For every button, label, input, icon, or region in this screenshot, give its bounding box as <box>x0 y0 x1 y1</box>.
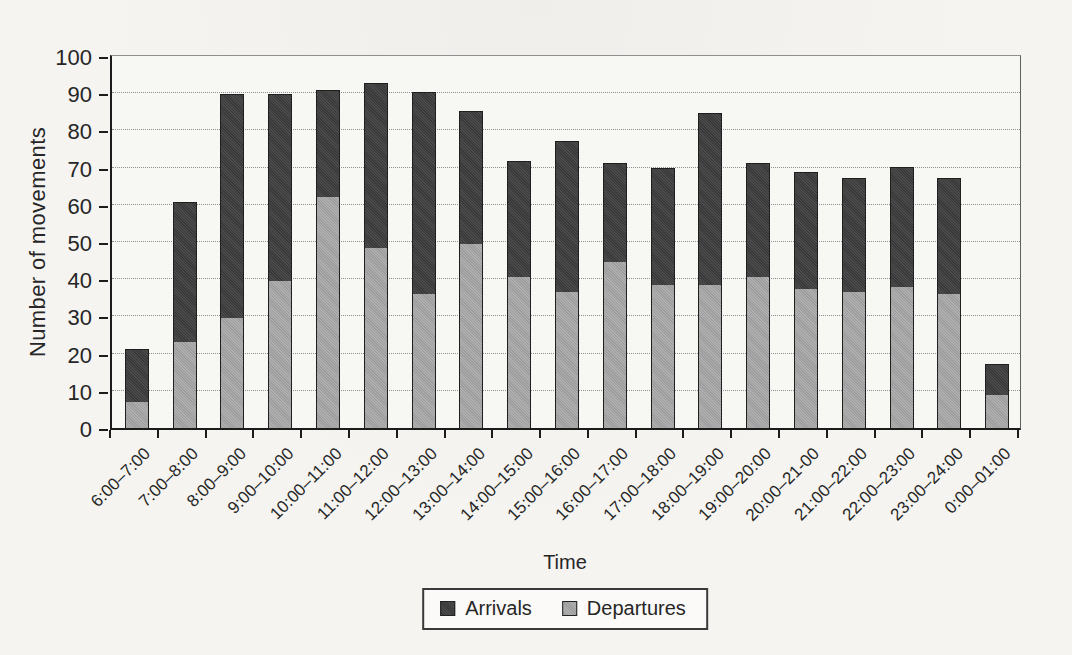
bar-segment-arrivals <box>365 84 387 248</box>
y-tick-label: 40 <box>68 269 92 293</box>
bar-segment-arrivals <box>795 173 817 288</box>
bar <box>268 94 292 428</box>
y-tick-mark <box>99 243 108 245</box>
legend-swatch-departures <box>562 601 577 616</box>
y-tick-label: 70 <box>68 158 92 182</box>
y-tick-label: 10 <box>68 381 92 405</box>
y-tick-mark <box>99 94 108 96</box>
legend: Arrivals Departures <box>422 588 708 630</box>
x-tick-mark <box>396 430 398 438</box>
x-tick-mark <box>682 430 684 438</box>
bar-segment-departures <box>699 285 721 428</box>
bar <box>125 349 149 428</box>
y-tick-label: 0 <box>80 418 92 442</box>
bar-segment-departures <box>269 281 291 428</box>
x-tick-mark <box>491 430 493 438</box>
bar-segment-arrivals <box>126 350 148 402</box>
x-tick-mark <box>444 430 446 438</box>
bar-segment-arrivals <box>508 162 530 277</box>
y-tick-mark <box>99 355 108 357</box>
bar <box>173 202 197 428</box>
bar-segment-departures <box>795 289 817 429</box>
y-tick-label: 20 <box>68 344 92 368</box>
legend-label-departures: Departures <box>587 597 686 620</box>
y-tick-mark <box>99 57 108 59</box>
x-tick-mark <box>635 430 637 438</box>
bar <box>507 161 531 428</box>
y-tick-label: 90 <box>68 83 92 107</box>
bar <box>985 364 1009 428</box>
plot-area <box>110 55 1021 430</box>
y-tick-mark <box>99 392 108 394</box>
x-tick-mark <box>730 430 732 438</box>
bar-segment-arrivals <box>460 112 482 244</box>
gridline <box>112 92 1020 93</box>
x-tick-mark <box>921 430 923 438</box>
bar-segment-arrivals <box>413 93 435 294</box>
x-tick-mark <box>205 430 207 438</box>
legend-swatch-arrivals <box>440 601 455 616</box>
bar-segment-arrivals <box>747 164 769 277</box>
bar-segment-departures <box>460 244 482 428</box>
y-tick-label: 100 <box>55 46 92 70</box>
bar-segment-departures <box>891 287 913 428</box>
gridline <box>112 129 1020 130</box>
bar <box>746 163 770 428</box>
bar <box>842 178 866 428</box>
bar-segment-arrivals <box>699 114 721 285</box>
legend-item-departures: Departures <box>562 597 686 620</box>
bar-segment-arrivals <box>938 179 960 294</box>
x-tick-mark <box>348 430 350 438</box>
x-tick-mark <box>157 430 159 438</box>
bar <box>316 90 340 428</box>
x-tick-mark <box>587 430 589 438</box>
bar-segment-departures <box>652 285 674 428</box>
bar-segment-arrivals <box>269 95 291 281</box>
bar <box>603 163 627 428</box>
bar-segment-arrivals <box>986 365 1008 395</box>
chart: Number of movements 01020304050607080901… <box>0 0 1072 655</box>
bar-segment-arrivals <box>174 203 196 343</box>
bar-segment-departures <box>508 277 530 428</box>
bar-segment-arrivals <box>221 95 243 318</box>
y-tick-mark <box>99 206 108 208</box>
x-tick-mark <box>300 430 302 438</box>
y-tick-mark <box>99 280 108 282</box>
y-tick-label: 80 <box>68 120 92 144</box>
bar-segment-departures <box>317 197 339 428</box>
bar <box>364 83 388 428</box>
bar <box>794 172 818 428</box>
bar <box>555 141 579 428</box>
bar-segment-departures <box>747 277 769 428</box>
x-tick-mark <box>826 430 828 438</box>
bar-segment-departures <box>174 342 196 428</box>
bar-segment-departures <box>413 294 435 428</box>
bar-segment-arrivals <box>843 179 865 292</box>
bar-segment-arrivals <box>317 91 339 197</box>
x-tick-mark <box>874 430 876 438</box>
bar-segment-departures <box>365 248 387 428</box>
bar <box>459 111 483 428</box>
bar <box>651 168 675 428</box>
x-tick-mark <box>1017 430 1019 438</box>
bar-segment-departures <box>221 318 243 428</box>
bar-segment-arrivals <box>556 142 578 293</box>
bar <box>937 178 961 428</box>
y-tick-mark <box>99 429 108 431</box>
x-tick-mark <box>252 430 254 438</box>
y-tick-mark <box>99 131 108 133</box>
bar-segment-departures <box>126 402 148 428</box>
y-tick-mark <box>99 317 108 319</box>
y-tick-label: 30 <box>68 306 92 330</box>
x-tick-mark <box>778 430 780 438</box>
bar-segment-arrivals <box>891 168 913 287</box>
legend-label-arrivals: Arrivals <box>465 597 532 620</box>
bar-segment-departures <box>986 395 1008 428</box>
x-tick-mark <box>539 430 541 438</box>
x-axis: 6:00–7:007:00–8:008:00–9:009:00–10:0010:… <box>110 430 1021 550</box>
bar-segment-arrivals <box>604 164 626 263</box>
bar <box>890 167 914 428</box>
bar-segment-departures <box>843 292 865 428</box>
bar-segment-departures <box>938 294 960 428</box>
bar <box>412 92 436 428</box>
